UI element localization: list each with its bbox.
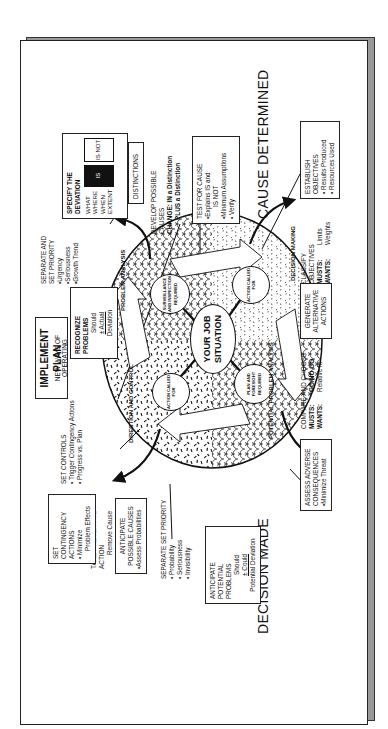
anticipate-problems-box: ANTICIPATE POTENTIAL PROBLEMS Should ± C… xyxy=(205,526,261,604)
wants-label: WANTS: xyxy=(324,249,332,284)
specify-title: SPECIFY THE DEVIATION xyxy=(66,138,82,214)
anticipate-line: Should xyxy=(233,531,241,599)
separate-ppa-item: • Probability xyxy=(168,499,176,579)
controls-item: • Progress vs. Plan xyxy=(76,384,84,484)
establish-objectives-box: ESTABLISH OBJECTIVES • Results Produced … xyxy=(300,121,340,199)
test-for-cause-box: TEST FOR CAUSE •Explains IS and IS NOT •… xyxy=(192,136,240,224)
separate-ppa-title: SEPARATE SET PRIORITY xyxy=(160,499,168,579)
anticipate-line: ± Could xyxy=(241,531,249,599)
musts-value: GO/NO GO xyxy=(308,351,316,392)
anticipate-causes-box: ANTICIPATE POSSIBLE CAUSES •Assess Proba… xyxy=(115,498,147,574)
action-called-for-pa-node: ACTION CALLED FOR xyxy=(232,266,270,304)
surveillance-node: SURVEILLANCE AND INSPECTION REQUIRED xyxy=(150,274,190,314)
recognize-line: ± Actual xyxy=(98,292,106,354)
wants-value: Weights xyxy=(324,212,332,245)
recognize-line: Deviation xyxy=(106,292,114,354)
controls-item: • Trigger Contingency Actions xyxy=(68,384,76,484)
plan-foresight-label: PLAN AND FORESIGHT REQUIRED xyxy=(246,365,261,403)
contingency-actions-box: SET CONTINGENCY ACTIONS • Minimize Probl… xyxy=(48,494,96,564)
controls-title: SET CONTROLS xyxy=(60,384,68,484)
develop-line: CHANGE: IN a Distinction xyxy=(166,144,174,234)
specify-deviation-box: SPECIFY THE DEVIATION WHAT WHERE WHEN EX… xyxy=(62,133,128,219)
specify-row: WHERE xyxy=(91,190,98,214)
separate-priority-pa: SEPARATE AND SET PRIORITY •Urgency •Seri… xyxy=(40,224,80,284)
region-direction-control: DIRECTION AND CONTROL xyxy=(128,364,134,443)
develop-line: PLUS a Distinction xyxy=(174,144,182,234)
specify-row: WHAT xyxy=(84,190,91,214)
preventive-line: Remove Cause xyxy=(106,489,114,569)
distinctions-label: DISTINCTIONS xyxy=(132,154,139,199)
job-situation-label: YOUR JOB SITUATION xyxy=(202,305,224,373)
action-pa-label: ACTION CALLED FOR xyxy=(246,267,256,303)
diagram-canvas: YOUR JOB SITUATION SURVEILLANCE AND INSP… xyxy=(0,0,388,729)
compare-and-choose: COMPARE AND CHOOSE MUSTS:GO/NO GO WANTS:… xyxy=(300,351,324,429)
contingency-item: Problem Effects xyxy=(84,499,92,559)
separate-priority-ppa: SEPARATE SET PRIORITY • Probability • Se… xyxy=(160,499,192,579)
adverse-item: •Minimize Threat xyxy=(320,444,328,506)
test-item: • Verify xyxy=(228,141,236,219)
region-potential-problem: POTENTIAL PROBLEM ANALYSIS xyxy=(268,342,274,439)
anticipate-causes-title: ANTICIPATE POSSIBLE CAUSES xyxy=(119,503,135,569)
separate-item: •Urgency xyxy=(56,224,64,284)
separate-item: •Seriousness xyxy=(64,224,72,284)
is-column: IS xyxy=(84,165,114,187)
musts-label: MUSTS: xyxy=(316,249,324,284)
job-situation-node: YOUR JOB SITUATION xyxy=(190,304,236,374)
recognize-problems-box: RECOGNIZE PROBLEMS Should ± Actual Devia… xyxy=(70,287,118,359)
musts-value: Limits xyxy=(316,212,324,245)
compare-title: COMPARE AND CHOOSE xyxy=(300,351,308,429)
specify-row: EXTENT xyxy=(106,190,113,214)
musts-label: MUSTS: xyxy=(308,396,316,429)
establish-item: • Results Produced xyxy=(320,126,328,194)
recognize-line: Should xyxy=(90,292,98,354)
wants-value: Relative fit xyxy=(316,351,324,392)
contingency-title: SET CONTINGENCY ACTIONS xyxy=(52,499,76,559)
separate-ppa-item: • Seriousness xyxy=(176,499,184,579)
develop-causes: DEVELOP POSSIBLE CAUSES CHANGE: IN a Dis… xyxy=(150,144,182,234)
anticipate-problems-title: ANTICIPATE POTENTIAL PROBLEMS xyxy=(209,531,233,599)
generate-title: GENERATE ALTERNATIVE ACTIONS xyxy=(304,288,328,334)
region-decision-making: DECISION MAKING xyxy=(290,226,296,281)
test-item: •Explains IS and xyxy=(204,141,212,219)
cause-determined-label: CAUSE DETERMINED xyxy=(255,70,271,219)
separate-item: •Growth Trend xyxy=(72,224,80,284)
action-called-for-dc-node: ACTION CALLED FOR xyxy=(152,373,190,411)
recognize-title: RECOGNIZE PROBLEMS xyxy=(74,292,90,354)
region-problem-analysis: PROBLEM ANALYSIS xyxy=(120,250,126,311)
set-controls: SET CONTROLS • Trigger Contingency Actio… xyxy=(60,384,84,484)
establish-title: ESTABLISH OBJECTIVES xyxy=(304,126,320,194)
surveillance-label: SURVEILLANCE AND INSPECTION REQUIRED xyxy=(162,275,177,313)
test-item: IS NOT xyxy=(212,141,220,219)
distinctions-box: DISTINCTIONS xyxy=(128,142,144,204)
classify-title: CLASSIFY OBJECTIVES xyxy=(300,212,316,284)
action-dc-label: ACTION CALLED FOR xyxy=(166,374,176,410)
is-not-column: IS NOT xyxy=(84,138,114,162)
separate-ppa-item: • Invisibility xyxy=(184,499,192,579)
contingency-item: • Minimize xyxy=(76,499,84,559)
adverse-title: ASSESS ADVERSE CONSEQUENCES xyxy=(304,444,320,506)
test-title: TEST FOR CAUSE xyxy=(196,141,204,219)
test-item: •Minimum Assumptions xyxy=(220,141,228,219)
specify-row: WHEN xyxy=(99,190,106,214)
develop-title: DEVELOP POSSIBLE CAUSES xyxy=(150,144,166,234)
establish-item: • Resources Used xyxy=(328,126,336,194)
adverse-consequences-box: ASSESS ADVERSE CONSEQUENCES •Minimize Th… xyxy=(300,439,332,511)
anticipate-causes-item: •Assess Probabilities xyxy=(135,503,143,569)
generate-alternatives-box: GENERATE ALTERNATIVE ACTIONS xyxy=(300,283,332,339)
separate-title: SEPARATE AND SET PRIORITY xyxy=(40,224,56,284)
anticipate-line: Potential Deviation xyxy=(249,531,257,599)
wants-label: WANTS: xyxy=(316,396,324,429)
classify-objectives: CLASSIFY OBJECTIVES MUSTS:Limits WANTS:W… xyxy=(300,212,332,284)
